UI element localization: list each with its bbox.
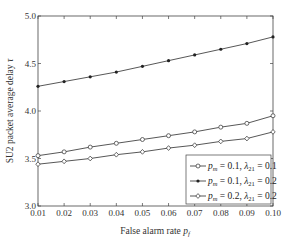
marker-diamond bbox=[140, 149, 144, 154]
x-tick-label: 0.02 bbox=[56, 208, 72, 218]
legend: pm = 0.1, λ21 = 0.1pm = 0.1, λ21 = 0.2pm… bbox=[186, 155, 277, 204]
marker-circle bbox=[114, 141, 118, 145]
marker-diamond bbox=[62, 159, 66, 164]
marker-diamond bbox=[88, 156, 92, 161]
x-tick-label: 0.06 bbox=[161, 208, 177, 218]
x-tick-label: 0.09 bbox=[239, 208, 255, 218]
x-tick-label: 0.10 bbox=[265, 208, 281, 218]
marker-circle bbox=[140, 138, 144, 142]
marker-circle bbox=[193, 130, 197, 134]
marker-diamond bbox=[271, 130, 275, 135]
x-axis-label: False alarm rate pf bbox=[120, 226, 191, 238]
series-line bbox=[38, 37, 273, 86]
marker-circle bbox=[219, 125, 223, 129]
marker-diamond bbox=[36, 162, 40, 167]
marker-diamond bbox=[114, 152, 118, 157]
series-2 bbox=[36, 35, 274, 88]
marker-diamond bbox=[245, 136, 249, 141]
x-tick-label: 0.08 bbox=[213, 208, 229, 218]
marker-dot bbox=[167, 59, 170, 62]
y-axis-label: SU2 packet average delay τ bbox=[5, 58, 15, 163]
marker-circle bbox=[271, 114, 275, 118]
marker-dot bbox=[196, 179, 199, 182]
marker-circle bbox=[245, 121, 249, 125]
marker-diamond bbox=[166, 146, 170, 151]
marker-circle bbox=[196, 164, 200, 168]
marker-circle bbox=[88, 145, 92, 149]
marker-circle bbox=[62, 150, 66, 154]
marker-circle bbox=[36, 154, 40, 158]
marker-dot bbox=[141, 65, 144, 68]
series-1 bbox=[36, 114, 275, 158]
x-tick-label: 0.05 bbox=[135, 208, 151, 218]
marker-dot bbox=[193, 53, 196, 56]
series-group bbox=[36, 35, 275, 166]
marker-dot bbox=[36, 85, 39, 88]
marker-diamond bbox=[192, 143, 196, 148]
marker-dot bbox=[245, 42, 248, 45]
y-tick-label: 4.5 bbox=[25, 59, 37, 69]
marker-dot bbox=[271, 35, 274, 38]
x-tick-label: 0.04 bbox=[108, 208, 124, 218]
marker-circle bbox=[167, 134, 171, 138]
y-tick-label: 3.0 bbox=[25, 201, 37, 211]
legend-label: pm = 0.2, λ21 = 0.2 bbox=[207, 191, 277, 202]
marker-dot bbox=[219, 48, 222, 51]
x-tick-label: 0.07 bbox=[187, 208, 203, 218]
marker-dot bbox=[89, 75, 92, 78]
legend-label: pm = 0.1, λ21 = 0.1 bbox=[207, 161, 277, 172]
y-tick-label: 3.5 bbox=[25, 154, 37, 164]
marker-dot bbox=[63, 80, 66, 83]
y-tick-label: 5.0 bbox=[25, 11, 37, 21]
y-tick-label: 4.0 bbox=[25, 106, 37, 116]
marker-dot bbox=[115, 70, 118, 73]
x-tick-label: 0.03 bbox=[82, 208, 98, 218]
marker-diamond bbox=[219, 139, 223, 144]
chart: 0.010.020.030.040.050.060.070.080.090.10… bbox=[0, 0, 294, 242]
legend-label: pm = 0.1, λ21 = 0.2 bbox=[207, 176, 277, 187]
